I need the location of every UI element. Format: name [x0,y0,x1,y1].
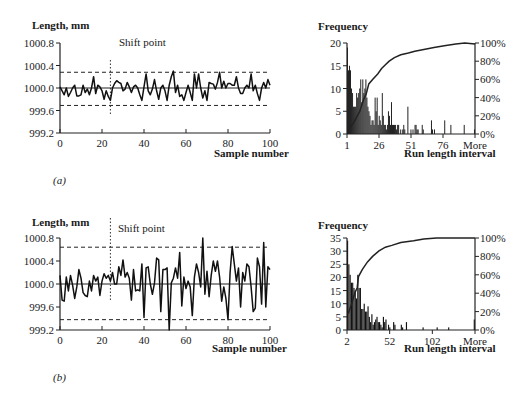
y-tick-label: 1000.8 [24,232,55,244]
y-tick-label: 30 [330,245,342,257]
frequency-bar [350,275,351,330]
frequency-bar [406,322,407,330]
frequency-bar [422,125,423,134]
frequency-bar [394,325,395,330]
frequency-bar [383,317,384,330]
frequency-bar [413,129,414,134]
x-tick-label: 20 [97,334,109,346]
frequency-bar [381,125,382,134]
y2-tick-label: 80% [480,250,500,262]
frequency-bar [423,129,424,134]
frequency-bar [365,312,366,330]
a-panel-label: (a) [53,174,66,187]
frequency-bar [393,322,394,330]
y2-tick-label: 20% [480,306,500,318]
frequency-bar [356,93,357,134]
frequency-bar [385,125,386,134]
frequency-bar [450,125,451,134]
x-tick-label: 52 [384,335,395,347]
x-tick-label: 60 [181,137,193,149]
a-timeseries-axes: 999.2999.61000.01000.41000.8020406080100 [24,37,279,149]
b-shift-label: Shift point [118,222,165,234]
frequency-bar [362,79,363,134]
x-tick-label: 1 [344,139,350,151]
frequency-bar [378,322,379,330]
frequency-bar [374,125,375,134]
chart-b-timeseries: Length, mm Shift point 999.2999.61000.01… [24,216,287,384]
frequency-bar [379,116,380,134]
y-tick-label: 15 [330,285,342,297]
frequency-bar [379,322,380,330]
y-tick-label: 999.2 [29,127,54,139]
y-tick-label: 0 [336,324,342,336]
frequency-bar [360,288,361,330]
frequency-bar [375,98,376,134]
x-tick-label: 40 [139,334,151,346]
cumulative-percent-line [348,238,475,313]
b-hist-ylabel: Frequency [318,219,368,231]
x-tick-label: 26 [374,139,386,151]
frequency-bar [382,93,383,134]
x-tick-label: 20 [97,137,109,149]
frequency-bar [404,129,405,134]
y-tick-label: 15 [330,60,342,72]
frequency-bar [373,120,374,134]
y-tick-label: 1000.0 [24,278,55,290]
frequency-bar [401,325,402,330]
chart-b-histogram: Frequency 051015202530350%20%40%60%80%10… [318,219,506,354]
frequency-bar [364,304,365,330]
frequency-bar [355,291,356,330]
frequency-bar [374,322,375,330]
y-tick-label: 1000.0 [24,82,55,94]
frequency-bar [380,325,381,330]
frequency-bar [367,107,368,134]
frequency-bar [371,125,372,134]
frequency-bar [372,120,373,134]
x-tick-label: 60 [181,334,193,346]
y-tick-label: 35 [330,232,342,244]
y2-tick-label: 60% [480,269,500,281]
frequency-bar [369,111,370,134]
frequency-bar [432,129,433,134]
b-hist-xlabel: Run length interval [404,342,496,354]
frequency-bar [464,125,465,134]
b-histogram-axes: 051015202530350%20%40%60%80%100%252102Mo… [330,232,506,347]
frequency-bar [373,325,374,330]
frequency-bar [352,283,353,330]
x-tick-label: 0 [57,137,63,149]
frequency-bar [366,98,367,134]
frequency-bar [351,89,352,135]
b-timeseries-axes: 999.2999.61000.01000.41000.8020406080100 [24,218,279,346]
frequency-bar [384,322,385,330]
frequency-bar [371,314,372,330]
frequency-bar [352,93,353,134]
frequency-bar [402,129,403,134]
chart-a-timeseries: Length, mm Shift point 999.2999.61000.01… [24,19,289,187]
y-tick-label: 999.2 [29,324,54,336]
frequency-bar [388,111,389,134]
frequency-bar [370,322,371,330]
y-tick-label: 999.6 [29,105,54,117]
y2-tick-label: 80% [480,55,500,67]
frequency-bar [386,129,387,134]
frequency-bar [394,125,395,134]
frequency-bar [397,125,398,134]
frequency-bar [375,319,376,330]
frequency-bar [361,309,362,330]
frequency-bar [367,306,368,330]
frequency-bar [348,264,349,330]
y-tick-label: 0 [336,128,342,140]
frequency-bar [416,125,417,134]
y-tick-label: 5 [336,105,342,117]
a-ylabel: Length, mm [32,19,89,31]
a-hist-xlabel: Run length interval [404,147,496,159]
frequency-bar [403,125,404,134]
a-xlabel: Sample number [214,147,289,159]
frequency-bar [387,125,388,134]
frequency-bar [383,116,384,134]
frequency-bar [356,298,357,330]
frequency-bar [418,129,419,134]
length-series-line [60,71,270,100]
frequency-bar [385,319,386,330]
frequency-bar [362,309,363,330]
